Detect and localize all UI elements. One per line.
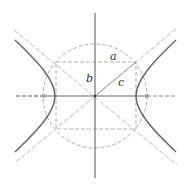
focus-left: [42, 94, 46, 98]
center-point: [94, 95, 96, 97]
label-b: b: [86, 72, 93, 85]
hyperbola-diagram: a b c: [0, 0, 186, 185]
label-a: a: [110, 50, 117, 63]
segment-c: [95, 62, 136, 96]
focus-right: [145, 94, 149, 98]
label-c: c: [118, 76, 124, 89]
